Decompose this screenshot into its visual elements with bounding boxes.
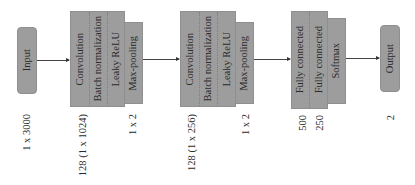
fc-block: Fully connected Fully connected [291,11,328,109]
dim-input: 1 x 3000 [22,114,33,151]
input-node: Input [17,27,37,94]
dim-output: 2 [386,115,397,120]
block1-layer-conv: Convolution [75,33,86,86]
input-label: Input [22,49,33,71]
block1-layer-batchnorm: Batch normalization [93,16,104,101]
output-node: Output [380,25,400,92]
block2-layer-leakyrelu: Leaky ReLU [222,32,233,87]
dim-fc2: 250 [315,115,326,131]
arrow-block1-to-block2 [143,59,179,60]
block1-layer-leakyrelu: Leaky ReLU [111,32,122,87]
block2-layer-conv: Convolution [185,33,196,86]
softmax-block: Softmax [327,18,346,104]
maxpool-block-2: Max-pooling [235,22,254,104]
softmax-label: Softmax [331,43,342,79]
block1-maxpool-label: Max-pooling [128,36,139,91]
arrow-input-to-block1 [37,60,69,61]
block2-maxpool-label: Max-pooling [239,36,250,91]
dim-block2: 128 (1 x 256) [187,114,198,171]
arrow-block2-to-block3 [254,59,290,60]
maxpool-block-1: Max-pooling [124,22,143,104]
dim-pool2: 1 x 2 [241,114,252,135]
block2-layer-batchnorm: Batch normalization [203,16,214,101]
conv-block-1: Convolution Batch normalization Leaky Re… [70,11,125,107]
fc-layer-1: Fully connected [295,26,306,93]
output-label: Output [385,44,396,73]
dim-fc1: 500 [298,115,309,131]
conv-block-2: Convolution Batch normalization Leaky Re… [180,11,236,107]
arrow-block3-to-output [346,58,379,59]
dim-pool1: 1 x 2 [128,114,139,135]
dim-block1: 128 (1 x 1024) [78,114,89,176]
fc-layer-2: Fully connected [314,26,325,93]
